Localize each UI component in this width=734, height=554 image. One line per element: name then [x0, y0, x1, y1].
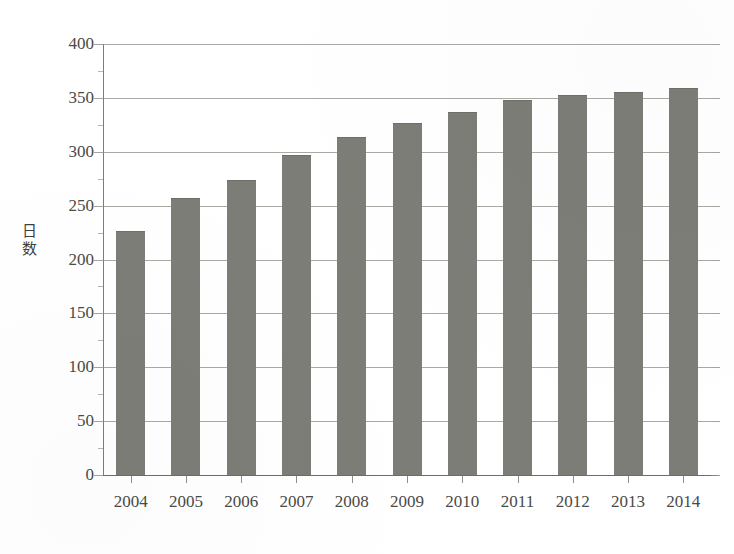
bar-2012	[558, 95, 587, 475]
y-tick-right-200	[711, 260, 720, 261]
y-minor-tick-375	[98, 71, 103, 72]
y-tick-right-250	[711, 206, 720, 207]
bar-2010	[448, 112, 477, 475]
y-tick-label-50: 50	[48, 412, 94, 429]
y-tick-label-100: 100	[48, 358, 94, 375]
gridline-400	[103, 44, 711, 45]
y-tick-left-250	[94, 206, 103, 207]
y-tick-left-200	[94, 260, 103, 261]
x-tick-2005	[186, 476, 187, 483]
y-minor-tick-175	[98, 286, 103, 287]
bar-2009	[393, 123, 422, 475]
bar-2007	[282, 155, 311, 475]
y-minor-tick-225	[98, 233, 103, 234]
y-axis-title-char-1: 日	[18, 222, 40, 240]
y-tick-label-200: 200	[48, 251, 94, 268]
x-tick-2013	[628, 476, 629, 483]
y-tick-label-0: 0	[48, 466, 94, 483]
x-tick-2007	[296, 476, 297, 483]
bar-2011	[503, 100, 532, 475]
y-tick-right-300	[711, 152, 720, 153]
y-tick-left-0	[94, 475, 103, 476]
y-axis-title: 日 数	[18, 222, 40, 258]
y-tick-left-300	[94, 152, 103, 153]
y-tick-left-150	[94, 313, 103, 314]
x-tick-2008	[352, 476, 353, 483]
y-minor-tick-325	[98, 125, 103, 126]
x-tick-2011	[518, 476, 519, 483]
y-tick-left-350	[94, 98, 103, 99]
y-tick-right-0	[711, 475, 720, 476]
y-tick-right-100	[711, 367, 720, 368]
bar-2014	[669, 88, 698, 475]
y-tick-right-350	[711, 98, 720, 99]
y-minor-tick-275	[98, 179, 103, 180]
y-tick-label-300: 300	[48, 143, 94, 160]
x-tick-label-2014: 2014	[648, 492, 718, 512]
y-tick-right-150	[711, 313, 720, 314]
y-tick-label-150: 150	[48, 304, 94, 321]
x-tick-2014	[683, 476, 684, 483]
x-tick-2010	[462, 476, 463, 483]
y-minor-tick-75	[98, 394, 103, 395]
y-tick-left-50	[94, 421, 103, 422]
bar-2008	[337, 137, 366, 475]
bar-2013	[614, 92, 643, 476]
x-tick-2006	[241, 476, 242, 483]
bar-2004	[116, 231, 145, 476]
y-tick-right-400	[711, 44, 720, 45]
x-tick-2012	[573, 476, 574, 483]
y-tick-right-50	[711, 421, 720, 422]
bar-chart-figure: 日 数 400350300250200150100500 20042005200…	[0, 0, 734, 554]
bar-2006	[227, 180, 256, 475]
plot-area	[103, 44, 711, 475]
y-tick-label-250: 250	[48, 197, 94, 214]
bar-2005	[171, 198, 200, 475]
y-tick-label-400: 400	[48, 35, 94, 52]
y-minor-tick-25	[98, 448, 103, 449]
y-tick-left-100	[94, 367, 103, 368]
y-tick-label-350: 350	[48, 89, 94, 106]
x-tick-2004	[131, 476, 132, 483]
y-axis-title-char-2: 数	[18, 240, 40, 258]
y-tick-left-400	[94, 44, 103, 45]
y-minor-tick-125	[98, 340, 103, 341]
x-tick-2009	[407, 476, 408, 483]
